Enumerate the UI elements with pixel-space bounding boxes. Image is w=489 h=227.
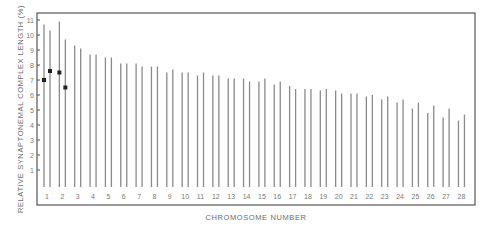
- x-tick-label: 18: [304, 193, 312, 200]
- y-axis-label: RELATIVE SYNAPTONEMAL COMPLEX LENGTH (%): [16, 5, 25, 213]
- y-tick-label: 8: [30, 62, 34, 69]
- y-tick-label: 7: [30, 77, 34, 84]
- x-tick-label: 3: [76, 193, 80, 200]
- y-tick-label: 6: [30, 92, 34, 99]
- x-tick-label: 5: [106, 193, 110, 200]
- x-tick-label: 17: [289, 193, 297, 200]
- x-tick-label: 8: [152, 193, 156, 200]
- x-tick-label: 7: [137, 193, 141, 200]
- x-tick-label: 2: [60, 193, 64, 200]
- x-tick-label: 22: [365, 193, 373, 200]
- data-point-marker: [63, 86, 67, 90]
- x-tick-label: 28: [458, 193, 466, 200]
- x-tick-label: 10: [181, 193, 189, 200]
- x-tick-label: 26: [427, 193, 435, 200]
- x-tick-label: 12: [212, 193, 220, 200]
- y-tick-label: 4: [30, 122, 34, 129]
- x-tick-label: 9: [168, 193, 172, 200]
- x-tick-label: 13: [227, 193, 235, 200]
- y-tick-label: 5: [30, 107, 34, 114]
- y-tick-label: 9: [30, 47, 34, 54]
- y-tick-label: 11: [27, 17, 34, 24]
- y-tick-label: 2: [30, 152, 34, 159]
- x-tick-label: 25: [412, 193, 420, 200]
- x-tick-label: 6: [122, 193, 126, 200]
- centromere-points: [42, 69, 67, 90]
- x-tick-label: 19: [319, 193, 327, 200]
- x-tick-label: 11: [197, 193, 204, 200]
- x-tick-label: 1: [45, 193, 49, 200]
- x-axis-label: CHROMOSOME NUMBER: [205, 213, 306, 222]
- x-tick-label: 23: [381, 193, 389, 200]
- data-point-marker: [57, 71, 61, 75]
- x-tick-label: 4: [91, 193, 95, 200]
- x-tick-label: 21: [350, 193, 358, 200]
- y-tick-label: 1: [30, 167, 34, 174]
- plot-frame: [37, 13, 475, 205]
- bar-series: [44, 22, 464, 188]
- data-point-marker: [48, 69, 52, 73]
- x-tick-label: 15: [258, 193, 266, 200]
- x-tick-label: 24: [396, 193, 404, 200]
- data-point-marker: [42, 78, 46, 82]
- x-tick-label: 27: [442, 193, 450, 200]
- y-tick-label: 10: [26, 32, 34, 39]
- x-tick-label: 16: [273, 193, 281, 200]
- x-axis-tick-labels: 1234567891011121314151617181920212223242…: [45, 193, 465, 200]
- y-tick-label: 3: [30, 137, 34, 144]
- x-tick-label: 20: [335, 193, 343, 200]
- x-tick-label: 14: [243, 193, 251, 200]
- chromosome-length-chart: 1234567891011 12345678910111213141516171…: [0, 0, 489, 227]
- y-axis: 1234567891011: [26, 17, 40, 174]
